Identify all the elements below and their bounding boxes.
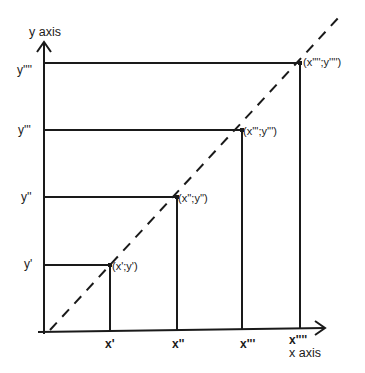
point-label-4: (x'''';y''''): [303, 56, 341, 68]
x-tick-label-1: x': [105, 338, 115, 350]
rect-4: [44, 63, 300, 328]
rect-3: [44, 130, 242, 329]
x-axis-line: [38, 328, 325, 332]
y-axis-title: y axis: [29, 26, 61, 38]
x-tick-label-3: x''': [240, 338, 255, 350]
point-label-3: (x''';y'''): [243, 125, 277, 137]
x-tick-label-2: x'': [172, 338, 184, 350]
x-axis-title: x axis: [289, 347, 321, 359]
x-tick-label-4: x'''': [289, 334, 307, 346]
point-label-2: (x'';y''): [178, 192, 208, 204]
y-tick-label-1: y': [24, 258, 32, 270]
y-tick-label-3: y''': [18, 124, 31, 136]
point-label-1: (x';y'): [112, 260, 138, 272]
point-marker-4: [298, 61, 302, 65]
y-tick-label-2: y'': [21, 191, 32, 203]
y-tick-label-4: y'''': [17, 64, 32, 76]
